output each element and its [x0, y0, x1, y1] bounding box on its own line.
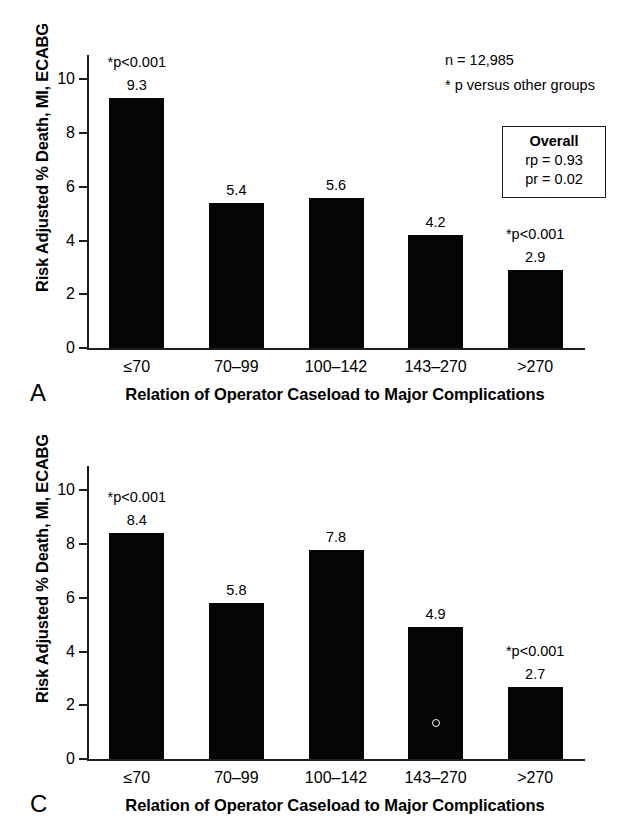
y-axis-line-c: [87, 466, 89, 759]
bar-value-label: 5.6: [326, 177, 346, 193]
y-axis-tick-label: 2: [66, 285, 75, 303]
y-axis-line-a: [87, 55, 89, 348]
y-axis-tick-label: 2: [66, 696, 75, 714]
y-axis-title-a: Risk Adjusted % Death, MI, ECABG: [33, 8, 52, 308]
x-axis-tick-label: 70–99: [214, 358, 259, 376]
bar-significance-label: *p<0.001: [108, 54, 166, 70]
y-axis-tick-label: 10: [57, 70, 75, 88]
bar-value-label: 7.8: [326, 529, 346, 545]
bar-143–270[interactable]: [408, 627, 463, 759]
y-axis-title-c: Risk Adjusted % Death, MI, ECABG: [33, 419, 52, 719]
y-axis-tick-label: 6: [66, 178, 75, 196]
y-axis-tick-label: 6: [66, 589, 75, 607]
y-axis-tick: [79, 240, 87, 242]
bar-value-label: 4.2: [426, 214, 446, 230]
y-axis-tick: [79, 132, 87, 134]
y-axis-tick-label: 8: [66, 124, 75, 142]
bar-≤70[interactable]: [109, 98, 164, 348]
y-axis-tick: [79, 489, 87, 491]
y-axis-tick: [79, 186, 87, 188]
x-axis-tick-label: >270: [517, 769, 553, 787]
plot-area-a: 02468109.3*p<0.001≤705.470–995.6100–1424…: [87, 58, 585, 348]
x-axis-tick-label: 100–142: [305, 769, 367, 787]
bar-value-label: 4.9: [426, 606, 446, 622]
overall-legend-title: Overall: [511, 133, 597, 149]
bar->270[interactable]: [508, 687, 563, 760]
bar-significance-label: *p<0.001: [506, 226, 564, 242]
bar-143–270[interactable]: [408, 235, 463, 348]
x-axis-title-c: Relation of Operator Caseload to Major C…: [70, 796, 600, 815]
bar-70–99[interactable]: [209, 203, 264, 348]
y-axis-tick-label: 0: [66, 750, 75, 768]
bar-value-label: 2.7: [525, 666, 545, 682]
bar-100–142[interactable]: [309, 550, 364, 759]
x-axis-tick-label: ≤70: [124, 769, 151, 787]
y-axis-tick: [79, 651, 87, 653]
bar-value-label: 2.9: [525, 249, 545, 265]
bar-≤70[interactable]: [109, 533, 164, 759]
y-axis-tick: [79, 758, 87, 760]
chart-panel-c: Risk Adjusted % Death, MI, ECABG 0246810…: [0, 411, 621, 823]
panel-letter-c: C: [30, 790, 47, 818]
x-axis-tick-label: 70–99: [214, 769, 259, 787]
panel-letter-a: A: [30, 379, 46, 407]
y-axis-tick: [79, 543, 87, 545]
overall-legend-rp: rp = 0.93: [511, 151, 597, 170]
x-axis-title-a: Relation of Operator Caseload to Major C…: [70, 385, 600, 404]
y-axis-tick-label: 8: [66, 535, 75, 553]
y-axis-tick: [79, 597, 87, 599]
overall-legend-box: Overall rp = 0.93 pr = 0.02: [502, 126, 606, 198]
bar-value-label: 8.4: [127, 512, 147, 528]
bar-value-label: 5.4: [226, 182, 246, 198]
x-axis-line-c: [87, 759, 585, 761]
x-axis-line-a: [87, 348, 585, 350]
bar-value-label: 9.3: [127, 77, 147, 93]
bar-significance-label: *p<0.001: [108, 489, 166, 505]
p-value-note-a: * p versus other groups: [445, 77, 595, 93]
y-axis-tick-label: 4: [66, 232, 75, 250]
y-axis-tick: [79, 704, 87, 706]
y-axis-tick: [79, 347, 87, 349]
x-axis-tick-label: ≤70: [124, 358, 151, 376]
sample-size-note-a: n = 12,985: [445, 52, 514, 68]
bar-100–142[interactable]: [309, 198, 364, 348]
overall-legend-pr: pr = 0.02: [511, 170, 597, 189]
x-axis-tick-label: 143–270: [404, 769, 466, 787]
y-axis-tick: [79, 78, 87, 80]
y-axis-tick-label: 0: [66, 339, 75, 357]
bar->270[interactable]: [508, 270, 563, 348]
bar-70–99[interactable]: [209, 603, 264, 759]
bar-value-label: 5.8: [226, 582, 246, 598]
x-axis-tick-label: 100–142: [305, 358, 367, 376]
x-axis-tick-label: >270: [517, 358, 553, 376]
x-axis-tick-label: 143–270: [404, 358, 466, 376]
chart-panel-a: Risk Adjusted % Death, MI, ECABG 0246810…: [0, 0, 621, 412]
y-axis-tick-label: 10: [57, 481, 75, 499]
bar-marker-dot: [432, 719, 440, 727]
y-axis-tick: [79, 293, 87, 295]
y-axis-tick-label: 4: [66, 643, 75, 661]
bar-significance-label: *p<0.001: [506, 643, 564, 659]
plot-area-c: 02468108.4*p<0.001≤705.870–997.8100–1424…: [87, 469, 585, 759]
